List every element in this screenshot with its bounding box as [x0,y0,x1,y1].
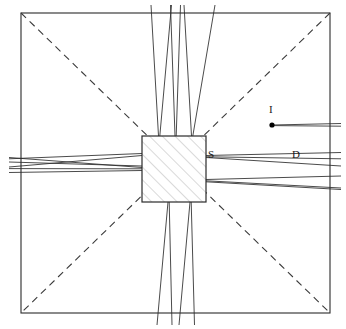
ray-bot-4 [191,202,194,325]
ray-right-l2 [206,181,341,188]
ray-left-2 [9,154,142,159]
label-D: D [292,149,300,160]
ray-left-5 [9,171,142,173]
incident-source-point [269,122,274,127]
ray-right-l1 [206,176,341,180]
label-I: I [269,104,273,115]
scatterer-hatch [142,136,206,202]
central-hatched-square [142,136,206,202]
ray-top-2 [160,5,172,136]
ray-bot-3 [179,202,190,325]
ray-incident-b [272,126,341,127]
incident-source-point [269,122,274,127]
ray-top-5 [184,5,192,136]
ray-bot-2 [169,202,172,325]
ray-top-6 [193,5,215,136]
ray-top-4 [176,5,180,136]
ray-diagram-figure: I S D [0,0,346,329]
ray-right-l3 [206,182,341,190]
ray-right-u1 [206,153,341,156]
label-S: S [208,149,214,160]
ray-bot-1 [157,202,168,325]
diagram-canvas [0,0,346,329]
ray-top-1 [151,5,159,136]
ray-top-3 [171,5,176,136]
ray-incident [272,124,341,126]
